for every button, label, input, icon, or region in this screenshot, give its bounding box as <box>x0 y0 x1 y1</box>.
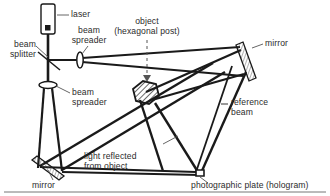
beam-right-descending <box>201 72 246 173</box>
beam-mirror-to-object-upper <box>146 50 241 92</box>
beam-object-upper-edge <box>82 47 240 58</box>
beam-spreader-lens-top <box>77 52 83 68</box>
label-mirror-bottom-left: mirror <box>32 181 55 191</box>
leader-mirror-top-right <box>252 44 263 48</box>
label-light-reflected: light reflected from object <box>84 152 137 171</box>
photographic-plate <box>196 170 204 176</box>
leader-light-reflected <box>163 136 178 144</box>
holography-setup-figure: laser beam splitter beam spreader beam s… <box>0 0 330 196</box>
label-mirror-top-right: mirror <box>265 39 288 49</box>
label-reference-beam: reference beam <box>231 98 268 117</box>
leader-beam-spreader-left <box>56 86 70 93</box>
beam-object-lower-edge <box>82 62 243 76</box>
label-object: object (hexagonal post) <box>104 17 190 36</box>
beam-reference-left-edge <box>38 88 44 168</box>
label-laser: laser <box>71 10 90 20</box>
beam-spreader-lens-left <box>39 82 57 89</box>
beam-reflected-right-edge <box>155 103 198 172</box>
laser-aperture-dot <box>45 25 51 31</box>
label-beam-spreader-left: beam spreader <box>72 88 107 107</box>
hexagonal-post-object <box>133 81 159 104</box>
leader-beam-spreader-top <box>82 46 88 54</box>
label-beam-splitter: beam splitter <box>0 40 36 59</box>
label-photographic-plate: photographic plate (hologram) <box>191 181 309 191</box>
